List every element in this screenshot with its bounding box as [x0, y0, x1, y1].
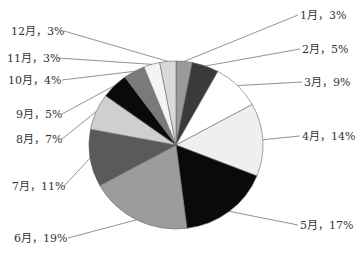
data-label-4: 4月，14%: [302, 130, 355, 143]
data-label-3: 3月，9%: [304, 76, 350, 89]
data-label-8: 8月，7%: [16, 133, 62, 146]
leader-line-11: [58, 58, 152, 64]
data-label-6: 6月，19%: [14, 232, 67, 245]
data-label-7: 7月，11%: [12, 180, 65, 193]
pie-slices: [89, 61, 263, 229]
leader-line-3: [238, 82, 302, 86]
leader-line-1: [184, 15, 298, 61]
data-label-9: 9月，5%: [16, 108, 62, 121]
leader-line-12: [64, 31, 168, 61]
data-label-5: 5月，17%: [300, 219, 353, 232]
leader-line-7: [64, 158, 90, 186]
data-label-2: 2月，5%: [302, 43, 348, 56]
leader-line-5: [229, 211, 298, 225]
pie-chart: 1月，3%2月，5%3月，9%4月，14%5月，17%6月，19%7月，11%8…: [0, 0, 356, 256]
leader-line-4: [263, 136, 300, 140]
leader-line-6: [68, 220, 137, 238]
data-label-1: 1月，3%: [300, 9, 346, 22]
leader-line-2: [205, 49, 300, 66]
data-label-11: 11月，3%: [7, 52, 60, 65]
data-label-10: 10月，4%: [8, 74, 61, 87]
data-label-12: 12月，3%: [11, 25, 64, 38]
